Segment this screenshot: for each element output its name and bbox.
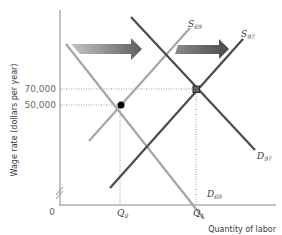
equilibrium-1969-dot <box>118 102 125 109</box>
d69-curve <box>66 44 204 219</box>
y-tick-50000: 50,000 <box>25 100 57 110</box>
s97-label: S97 <box>241 29 255 40</box>
equilibrium-1997-square <box>193 86 200 93</box>
d69-label: D69 <box>206 189 222 200</box>
s69-label: S69 <box>188 19 202 30</box>
x-tick-origin: 0 <box>49 207 55 217</box>
x-axis-title: Quantity of labor <box>208 225 276 234</box>
y-axis-title: Wage rate (dollars per year) <box>10 64 19 177</box>
y-tick-70000: 70,000 <box>25 84 57 94</box>
d97-label: D97 <box>256 151 272 162</box>
d97-curve <box>131 17 255 150</box>
labor-market-chart: S69 S97 D97 D69 70,000 50,000 0 Q0 Q1 Qu… <box>0 0 282 235</box>
x-tick-q1: Q1 <box>193 208 204 219</box>
supply-shift-arrow-icon <box>175 39 229 59</box>
s97-curve <box>110 39 243 188</box>
demand-shift-arrow-icon <box>71 38 142 60</box>
x-tick-q0: Q0 <box>117 208 128 219</box>
